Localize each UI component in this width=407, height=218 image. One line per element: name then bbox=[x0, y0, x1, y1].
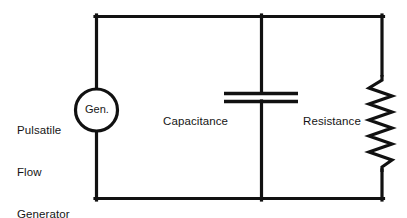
generator-symbol-label: Gen. bbox=[76, 103, 118, 115]
generator-label: Pulsatile Flow Generator bbox=[17, 95, 70, 218]
circuit-diagram-canvas: Pulsatile Flow Generator Gen. Capacitanc… bbox=[0, 0, 407, 218]
resistance-label: Resistance bbox=[303, 114, 361, 128]
generator-label-line-3: Generator bbox=[17, 207, 70, 218]
capacitance-label: Capacitance bbox=[163, 114, 228, 128]
generator-label-line-1: Pulsatile bbox=[17, 123, 70, 137]
generator-label-line-2: Flow bbox=[17, 165, 70, 179]
resistor-zigzag-icon bbox=[369, 75, 392, 172]
